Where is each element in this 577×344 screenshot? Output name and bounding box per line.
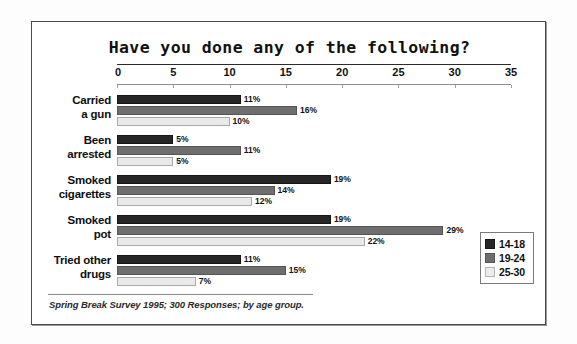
bar	[117, 186, 275, 195]
category-label-line: drugs	[32, 268, 111, 282]
legend-label: 25-30	[499, 266, 525, 278]
category-label: Beenarrested	[32, 134, 111, 161]
category-label: Smokedcigarettes	[32, 174, 111, 201]
bars-container: 5%11%5%	[117, 134, 547, 170]
bar-value-label: 7%	[199, 276, 211, 287]
footnote-divider	[48, 294, 313, 295]
axis-rule-bottom	[117, 84, 511, 85]
bar-value-label: 11%	[244, 145, 261, 156]
category-label-line: Tried other	[54, 254, 111, 266]
category-label-line: Smoked	[67, 214, 111, 226]
x-axis-tick-label: 25	[392, 66, 404, 78]
bar-group: Carrieda gun11%16%10%	[32, 94, 547, 130]
bars-container: 19%14%12%	[117, 174, 547, 210]
category-label: Tried otherdrugs	[32, 254, 111, 281]
x-axis-tick-mark	[230, 85, 231, 88]
category-label-line: Been	[84, 134, 111, 146]
category-label: Smokedpot	[32, 214, 111, 241]
x-axis-tick-mark	[455, 85, 456, 88]
bar	[117, 135, 173, 144]
bar-group: Smokedcigarettes19%14%12%	[32, 174, 547, 210]
category-label-line: a gun	[32, 108, 111, 122]
category-label-line: cigarettes	[32, 188, 111, 202]
x-axis-tick-mark	[398, 85, 399, 88]
legend-item: 14-18	[485, 237, 529, 251]
bars-container: 11%16%10%	[117, 94, 547, 130]
x-axis-tick-label: 20	[336, 66, 348, 78]
x-axis-tick-mark	[342, 85, 343, 88]
legend-label: 14-18	[499, 238, 525, 250]
bar	[117, 157, 173, 166]
bar-value-label: 5%	[176, 134, 188, 145]
bar-value-label: 15%	[289, 265, 306, 276]
legend-item: 19-24	[485, 251, 529, 265]
category-label: Carrieda gun	[32, 94, 111, 121]
bar	[117, 266, 286, 275]
bar-value-label: 12%	[255, 196, 272, 207]
legend-item: 25-30	[485, 265, 529, 279]
bar	[117, 175, 331, 184]
legend-swatch-icon	[485, 239, 495, 249]
bar-group: Beenarrested5%11%5%	[32, 134, 547, 170]
page-title: Have you done any of the following?	[32, 38, 547, 57]
x-axis-tick-mark	[286, 85, 287, 88]
chart-frame: Have you done any of the following? 0510…	[31, 21, 546, 325]
x-axis-tick-label: 30	[449, 66, 461, 78]
bar	[117, 146, 241, 155]
bar-value-label: 16%	[300, 105, 317, 116]
bar-value-label: 11%	[244, 94, 261, 105]
bar	[117, 215, 331, 224]
bar	[117, 237, 365, 246]
bar	[117, 95, 241, 104]
x-axis-tick-label: 10	[223, 66, 235, 78]
bar-value-label: 5%	[176, 156, 188, 167]
x-axis-tick-label: 35	[505, 66, 517, 78]
category-label-line: Smoked	[67, 174, 111, 186]
category-label-line: arrested	[32, 148, 111, 162]
bar	[117, 226, 443, 235]
bar	[117, 277, 196, 286]
legend-swatch-icon	[485, 267, 495, 277]
bar-value-label: 22%	[368, 236, 385, 247]
category-label-line: Carried	[72, 94, 111, 106]
chart-page: Have you done any of the following? 0510…	[0, 0, 577, 344]
bar-group: Smokedpot19%29%22%	[32, 214, 547, 250]
bar-value-label: 10%	[233, 116, 250, 127]
footnote: Spring Break Survey 1995; 300 Responses;…	[49, 299, 304, 310]
x-axis-tick-label: 0	[115, 66, 121, 78]
x-axis-tick-label: 15	[280, 66, 292, 78]
x-axis: 05101520253035	[117, 64, 511, 84]
bar	[117, 197, 252, 206]
bar	[117, 106, 297, 115]
bar-value-label: 19%	[334, 174, 351, 185]
bar-value-label: 19%	[334, 214, 351, 225]
bar	[117, 117, 230, 126]
x-axis-tick-mark	[117, 85, 118, 88]
bar-value-label: 14%	[278, 185, 295, 196]
x-axis-tick-mark	[173, 85, 174, 88]
legend-swatch-icon	[485, 253, 495, 263]
bar-value-label: 11%	[244, 254, 261, 265]
legend-label: 19-24	[499, 252, 525, 264]
category-label-line: pot	[32, 228, 111, 242]
bar-value-label: 29%	[446, 225, 463, 236]
bar	[117, 255, 241, 264]
bar-group: Tried otherdrugs11%15%7%	[32, 254, 547, 290]
x-axis-tick-label: 5	[170, 66, 176, 78]
legend: 14-18 19-24 25-30	[480, 232, 534, 284]
x-axis-tick-mark	[511, 85, 512, 88]
